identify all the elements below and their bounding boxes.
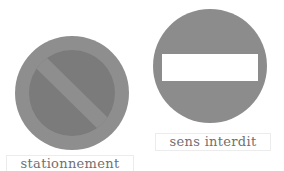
- no-entry-bar: [162, 54, 258, 81]
- no-entry-label: sens interdit: [155, 133, 271, 151]
- no-parking-label: stationnement: [6, 155, 134, 171]
- no-entry-sign-icon: [152, 9, 270, 125]
- no-parking-sign-icon: [13, 35, 131, 151]
